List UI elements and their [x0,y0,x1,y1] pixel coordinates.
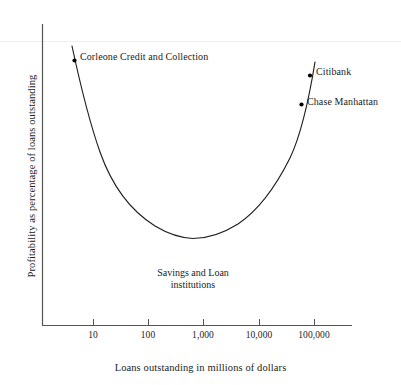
annotation-citibank: Citibank [316,66,351,78]
annotation-savings-line-1: Savings and Loan [133,267,253,279]
annotation-savings-line-2: institutions [133,279,253,291]
marker-corleone [72,58,76,62]
x-tick-label-100: 100 [141,330,156,341]
annotation-chase-manhattan: Chase Manhattan [307,96,378,108]
x-tick-label-10000: 10,000 [246,330,273,341]
x-tick-label-100000: 100,000 [298,330,330,341]
x-tick-label-1000: 1,000 [192,330,214,341]
chart-figure: Profitability as percentage of loans out… [0,0,401,385]
marker-citibank [308,73,312,77]
annotation-corleone-credit-and-collection: Corleone Credit and Collection [80,51,208,63]
marker-chase-manhattan [299,102,303,106]
x-tick-label-10: 10 [88,330,98,341]
x-axis-title: Loans outstanding in millions of dollars [0,362,401,374]
y-axis-title: Profitability as percentage of loans out… [26,56,38,296]
x-axis-ticks [94,319,315,325]
profitability-curve [72,46,315,239]
annotation-savings-and-loan-institutions: Savings and Loan institutions [133,267,253,290]
